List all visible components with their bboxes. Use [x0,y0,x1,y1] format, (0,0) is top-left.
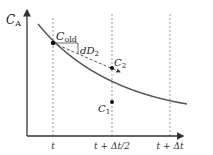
rate-diagram: CA Cold dD2 C2 C1 t t + Δt/2 t + Δt [0,0,213,155]
c2-label: C2 [114,57,126,70]
tick-t: t [51,141,55,151]
y-axis-label: CA [6,13,21,28]
tick-t-full: t + Δt [157,141,184,151]
point-c-old [51,41,55,45]
c-old-label: Cold [56,30,77,44]
tick-t-half: t + Δt/2 [94,141,130,151]
c1-label: C1 [98,103,110,116]
point-c1 [110,100,114,104]
